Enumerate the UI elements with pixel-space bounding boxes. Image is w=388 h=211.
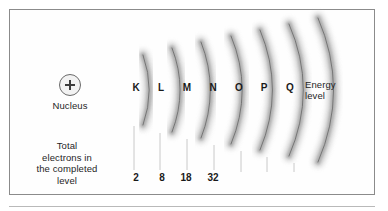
- energy-level-label: Energy level: [305, 79, 359, 101]
- total-electrons-line-2: electrons in: [42, 152, 92, 163]
- footer-divider: [9, 206, 375, 207]
- electron-count-m: 18: [176, 172, 196, 184]
- energy-level-line-2: level: [305, 90, 325, 101]
- electron-count-n: 32: [203, 172, 223, 184]
- shell-label-l: L: [153, 82, 169, 94]
- energy-level-line-1: Energy: [305, 79, 336, 90]
- total-electrons-line-1: Total: [57, 140, 78, 151]
- total-electrons-line-3: the completed: [37, 163, 98, 174]
- nucleus: [59, 74, 81, 96]
- shell-label-o: O: [231, 82, 247, 94]
- total-electrons-line-4: level: [57, 175, 77, 186]
- total-electrons-label: Total electrons in the completed level: [12, 140, 122, 186]
- energy-level-diagram: Nucleus Total electrons in the completed…: [0, 0, 388, 211]
- electron-count-k: 2: [126, 172, 146, 184]
- shell-label-n: N: [205, 82, 221, 94]
- electron-count-l: 8: [152, 172, 172, 184]
- shell-label-m: M: [179, 82, 195, 94]
- shell-label-q: Q: [282, 82, 298, 94]
- shell-label-k: K: [128, 82, 144, 94]
- plus-icon-vertical: [69, 80, 71, 90]
- nucleus-label: Nucleus: [42, 100, 98, 112]
- shell-label-p: P: [256, 82, 272, 94]
